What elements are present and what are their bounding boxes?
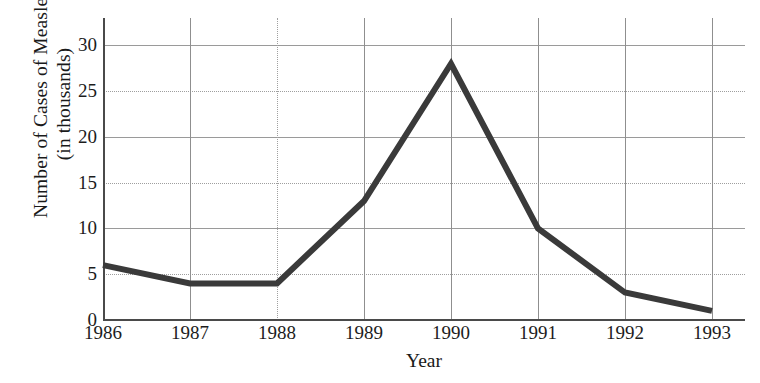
y-tick-label-5: 5 xyxy=(63,263,97,285)
plot-area xyxy=(103,18,745,320)
data-series-measles-cases xyxy=(103,18,745,320)
y-tick-label-30: 30 xyxy=(63,34,97,56)
x-tick-label-1990: 1990 xyxy=(416,322,486,344)
line-chart-figure: Number of Cases of Measles (in thousands… xyxy=(0,0,760,383)
x-tick-label-1986: 1986 xyxy=(68,322,138,344)
y-tick-label-10: 10 xyxy=(63,217,97,239)
y-axis-title-line-1: Number of Cases of Measles xyxy=(29,0,52,218)
y-tick-label-25: 25 xyxy=(63,80,97,102)
y-tick-label-15: 15 xyxy=(63,172,97,194)
y-tick-label-20: 20 xyxy=(63,126,97,148)
measles-cases-line xyxy=(103,64,712,311)
x-tick-label-1987: 1987 xyxy=(155,322,225,344)
x-tick-label-1993: 1993 xyxy=(677,322,747,344)
x-tick-label-1988: 1988 xyxy=(242,322,312,344)
x-tick-label-1991: 1991 xyxy=(503,322,573,344)
x-axis-tick-labels: 19861987198819891990199119921993 xyxy=(0,322,760,348)
x-tick-label-1992: 1992 xyxy=(590,322,660,344)
x-axis-title: Year xyxy=(103,350,745,372)
x-tick-label-1989: 1989 xyxy=(329,322,399,344)
